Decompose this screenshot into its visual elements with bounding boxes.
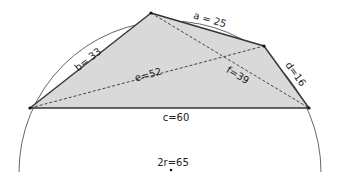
label-diameter: 2r=65 xyxy=(157,157,189,168)
circle-center xyxy=(170,169,173,172)
cyclic-quadrilateral-diagram: b= 33 a = 25 d=16 e=52 f=39 c=60 2r=65 xyxy=(0,0,340,178)
vertex-top-left xyxy=(149,11,152,14)
quadrilateral-fill xyxy=(30,13,309,108)
vertex-bottom-right xyxy=(307,106,310,109)
label-c: c=60 xyxy=(163,112,190,123)
vertex-top-right xyxy=(262,44,265,47)
vertex-bottom-left xyxy=(28,106,31,109)
